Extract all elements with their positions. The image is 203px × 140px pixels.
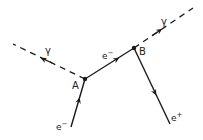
diagram-canvas: A B γ γ e− e− e+ <box>0 0 203 140</box>
electron-mid-label: e− <box>102 49 114 61</box>
electron-in-label: e− <box>56 120 68 132</box>
gamma-left-label: γ <box>45 45 51 56</box>
vertex-b-label: B <box>139 46 146 57</box>
outgoing-positron-line <box>134 48 170 124</box>
vertex-a-label: A <box>72 80 79 91</box>
vertex-a-dot <box>83 77 87 81</box>
feynman-diagram: A B γ γ e− e− e+ <box>0 0 203 140</box>
vertex-b-dot <box>132 46 136 50</box>
positron-label: e+ <box>171 111 183 123</box>
gamma-right-label: γ <box>161 16 167 27</box>
right-photon-line <box>134 8 193 48</box>
